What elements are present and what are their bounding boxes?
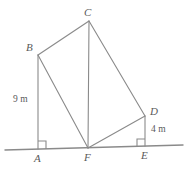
segment-BF — [38, 55, 88, 148]
vertex-label-B: B — [26, 42, 33, 53]
ground-line — [5, 145, 183, 150]
right-angle-marker-E — [137, 139, 145, 146]
segment-BC — [38, 21, 89, 55]
vertex-label-D: D — [150, 106, 158, 117]
geometry-figure: B C D A F E 9 m 4 m — [0, 0, 187, 169]
vertex-label-C: C — [84, 7, 91, 18]
right-angle-marker-A — [38, 141, 46, 149]
figure-canvas — [0, 0, 187, 169]
measure-label-DE: 4 m — [151, 125, 166, 135]
vertex-label-F: F — [84, 152, 91, 163]
vertex-label-A: A — [34, 153, 41, 164]
segment-CD — [89, 21, 145, 116]
segment-CF — [88, 21, 89, 148]
measure-label-AB: 9 m — [13, 95, 28, 105]
vertex-label-E: E — [141, 150, 148, 161]
